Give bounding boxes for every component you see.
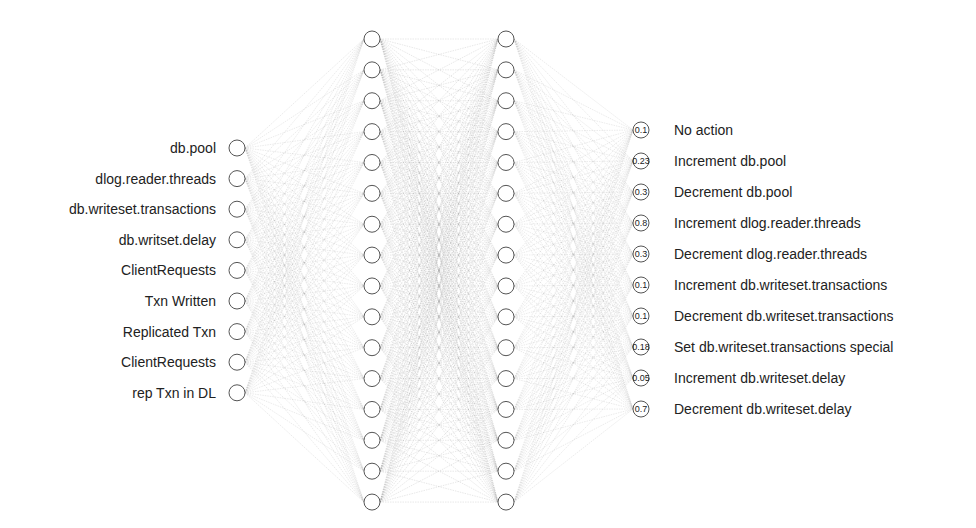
- edge-line: [245, 301, 364, 409]
- node-circle-icon: [364, 93, 380, 109]
- hidden-1-node: [364, 371, 380, 387]
- hidden-2-node: [498, 278, 514, 294]
- hidden-1-node: [364, 309, 380, 325]
- input-feature-label: db.writeset.transactions: [69, 201, 216, 217]
- node-circle-icon: [229, 232, 245, 248]
- input-node: [229, 171, 245, 187]
- hidden-2-node: [498, 216, 514, 232]
- hidden-2-node: [498, 340, 514, 356]
- node-circle-icon: [498, 432, 514, 448]
- node-circle-icon: [364, 216, 380, 232]
- edge-line: [245, 39, 364, 332]
- node-circle-icon: [498, 31, 514, 47]
- node-circle-icon: [229, 293, 245, 309]
- node-circle-icon: [229, 262, 245, 278]
- output-value: 0.1: [635, 280, 648, 290]
- input-node: [229, 140, 245, 156]
- output-action-label: Set db.writeset.transactions special: [674, 339, 893, 355]
- edge-line: [245, 162, 364, 392]
- output-action-label: Increment db.writeset.delay: [674, 370, 845, 386]
- edge-line: [514, 39, 633, 130]
- connection-edges: [245, 39, 633, 502]
- output-value: 0.7: [635, 404, 648, 414]
- hidden-1-node: [364, 432, 380, 448]
- node-circle-icon: [364, 309, 380, 325]
- node-circle-icon: [364, 401, 380, 417]
- hidden-2-node: [498, 463, 514, 479]
- output-action-label: Decrement db.writeset.transactions: [674, 308, 893, 324]
- edge-line: [245, 362, 364, 471]
- output-node: 0.18: [632, 339, 650, 355]
- output-node: 0.3: [633, 184, 649, 200]
- input-feature-label: rep Txn in DL: [132, 385, 216, 401]
- output-node: 0.05: [632, 370, 650, 386]
- edge-line: [514, 130, 633, 224]
- hidden-1-node: [364, 494, 380, 510]
- node-circle-icon: [498, 154, 514, 170]
- edge-line: [514, 130, 633, 255]
- input-node: [229, 324, 245, 340]
- node-circle-icon: [364, 463, 380, 479]
- edge-line: [245, 39, 364, 148]
- hidden-2-node: [498, 31, 514, 47]
- output-node: 0.1: [633, 122, 649, 138]
- hidden-2-node: [498, 401, 514, 417]
- input-feature-label: ClientRequests: [121, 354, 216, 370]
- hidden-1-node: [364, 154, 380, 170]
- hidden-1-node: [364, 124, 380, 140]
- node-circle-icon: [364, 62, 380, 78]
- input-feature-label: db.writset.delay: [119, 232, 216, 248]
- edge-line: [245, 332, 364, 441]
- input-node: [229, 262, 245, 278]
- hidden-1-node: [364, 62, 380, 78]
- edge-line: [245, 393, 364, 471]
- output-node: 0.8: [633, 215, 649, 231]
- edge-line: [514, 347, 633, 502]
- node-circle-icon: [364, 31, 380, 47]
- node-circle-icon: [498, 463, 514, 479]
- edge-line: [245, 162, 364, 331]
- output-node: 0.23: [632, 153, 650, 169]
- node-circle-icon: [498, 371, 514, 387]
- node-circle-icon: [364, 247, 380, 263]
- node-circle-icon: [498, 62, 514, 78]
- node-circle-icon: [498, 309, 514, 325]
- output-value: 0.05: [632, 373, 650, 383]
- hidden-2-node: [498, 371, 514, 387]
- output-node: 0.1: [633, 308, 649, 324]
- edge-line: [245, 317, 364, 393]
- input-feature-label: db.pool: [170, 140, 216, 156]
- edge-line: [245, 70, 364, 209]
- input-feature-label: dlog.reader.threads: [95, 171, 216, 187]
- hidden-1-node: [364, 247, 380, 263]
- node-circle-icon: [364, 494, 380, 510]
- node-circle-icon: [498, 185, 514, 201]
- node-circle-icon: [498, 247, 514, 263]
- output-value: 0.1: [635, 125, 648, 135]
- edge-line: [514, 101, 633, 130]
- input-node: [229, 201, 245, 217]
- input-node: [229, 232, 245, 248]
- node-circle-icon: [498, 124, 514, 140]
- edge-line: [514, 409, 633, 502]
- edge-line: [245, 70, 364, 240]
- node-circle-icon: [364, 278, 380, 294]
- node-circle-icon: [229, 171, 245, 187]
- node-circle-icon: [364, 432, 380, 448]
- hidden-2-node: [498, 494, 514, 510]
- hidden-1-node: [364, 278, 380, 294]
- input-node: [229, 385, 245, 401]
- node-circle-icon: [498, 93, 514, 109]
- node-circle-icon: [498, 494, 514, 510]
- node-circle-icon: [364, 185, 380, 201]
- node-circle-icon: [364, 154, 380, 170]
- output-value: 0.18: [632, 342, 650, 352]
- node-circle-icon: [498, 216, 514, 232]
- output-action-label: Increment dlog.reader.threads: [674, 215, 861, 231]
- output-node: 0.1: [633, 277, 649, 293]
- input-feature-label: Replicated Txn: [123, 324, 216, 340]
- edge-line: [245, 193, 364, 392]
- edge-line: [245, 393, 364, 502]
- input-feature-label: ClientRequests: [121, 262, 216, 278]
- hidden-1-node: [364, 216, 380, 232]
